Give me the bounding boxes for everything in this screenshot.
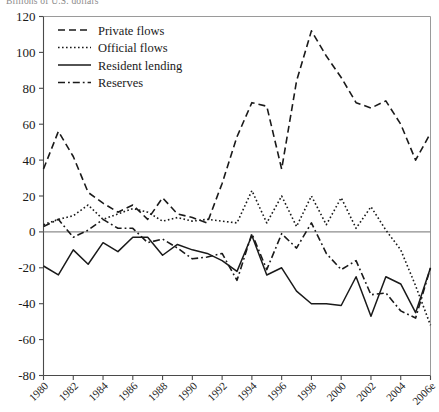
unit-note: Billions of U.S. dollars	[6, 0, 99, 6]
legend-label-3: Reserves	[98, 76, 143, 90]
svg-text:2000: 2000	[324, 379, 348, 403]
series-line-1	[44, 191, 431, 326]
svg-text:120: 120	[16, 9, 36, 24]
svg-text:1994: 1994	[235, 379, 259, 403]
svg-text:1996: 1996	[265, 379, 289, 403]
svg-text:40: 40	[23, 153, 36, 168]
svg-text:-80: -80	[18, 368, 35, 383]
svg-text:2006e: 2006e	[410, 379, 438, 407]
series-line-2	[44, 235, 431, 316]
line-chart: 120100806040200-20-40-60-80 198019821984…	[0, 0, 439, 412]
legend: Private flowsOfficial flowsResident lend…	[58, 24, 183, 91]
legend-label-2: Resident lending	[98, 59, 183, 73]
svg-text:20: 20	[23, 189, 36, 204]
svg-text:1984: 1984	[86, 379, 110, 403]
x-axis-ticks: 1980198219841986198819901992199419961998…	[26, 376, 437, 407]
svg-text:1988: 1988	[145, 379, 169, 403]
svg-text:-60: -60	[18, 332, 35, 347]
svg-text:-40: -40	[18, 296, 35, 311]
svg-text:1986: 1986	[116, 379, 140, 403]
svg-text:100: 100	[16, 45, 36, 60]
series-line-3	[44, 219, 431, 318]
legend-label-0: Private flows	[98, 24, 164, 38]
figure-container: Billions of U.S. dollars 120100806040200…	[0, 0, 439, 412]
legend-label-1: Official flows	[98, 41, 168, 55]
svg-text:1990: 1990	[175, 379, 199, 403]
y-axis-ticks: 120100806040200-20-40-60-80	[16, 9, 44, 383]
svg-text:2004: 2004	[384, 379, 408, 403]
svg-text:80: 80	[23, 81, 36, 96]
svg-text:-20: -20	[18, 260, 35, 275]
svg-text:60: 60	[23, 117, 36, 132]
svg-text:1982: 1982	[56, 379, 80, 403]
svg-text:0: 0	[29, 224, 36, 239]
svg-text:1998: 1998	[294, 379, 318, 403]
svg-text:2002: 2002	[354, 379, 378, 403]
svg-text:1992: 1992	[205, 379, 229, 403]
